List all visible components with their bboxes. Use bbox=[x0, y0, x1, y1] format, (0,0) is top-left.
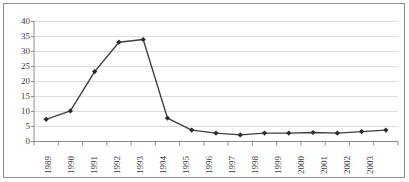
data-point-1989 bbox=[44, 117, 49, 122]
data-point-1998 bbox=[262, 131, 267, 136]
series-line bbox=[46, 40, 386, 135]
data-point-markers bbox=[44, 37, 389, 138]
data-point-1995 bbox=[189, 128, 194, 133]
line-chart: 40 35 30 25 20 15 10 5 0 1989 1990 1991 … bbox=[4, 4, 406, 179]
data-point-2000 bbox=[310, 130, 315, 135]
gridlines bbox=[34, 22, 398, 127]
data-point-2001 bbox=[335, 131, 340, 136]
data-point-2002 bbox=[359, 129, 364, 134]
data-point-1999 bbox=[286, 131, 291, 136]
plot-canvas bbox=[4, 4, 406, 179]
data-point-2003 bbox=[383, 128, 388, 133]
chart-frame: 40 35 30 25 20 15 10 5 0 1989 1990 1991 … bbox=[3, 3, 405, 178]
data-point-1994 bbox=[165, 116, 170, 121]
x-tick-marks bbox=[34, 142, 398, 146]
data-point-1993 bbox=[141, 37, 146, 42]
data-point-1997 bbox=[238, 132, 243, 137]
data-point-1996 bbox=[213, 131, 218, 136]
